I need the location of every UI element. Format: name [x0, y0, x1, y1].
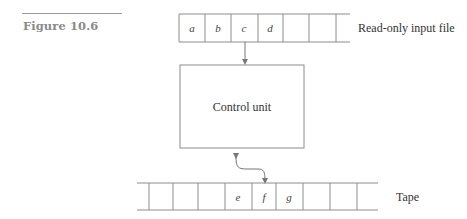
input-cell-4: d	[267, 22, 273, 34]
read-write-arrow	[236, 156, 265, 181]
input-file-label: Read-only input file	[358, 21, 455, 35]
tape-cell-g: g	[286, 191, 292, 203]
diagram-canvas: a b c d Read-only input file Control uni…	[0, 0, 467, 219]
work-tape: e f g	[137, 183, 378, 210]
input-cell-2: b	[215, 22, 221, 34]
tape-cell-f: f	[262, 191, 267, 203]
input-file-tape: a b c d	[179, 14, 350, 42]
input-cell-3: c	[242, 22, 247, 34]
tape-cell-e: e	[236, 191, 241, 203]
control-unit-label: Control unit	[213, 100, 272, 114]
input-cell-1: a	[189, 22, 195, 34]
tape-label: Tape	[396, 190, 419, 204]
